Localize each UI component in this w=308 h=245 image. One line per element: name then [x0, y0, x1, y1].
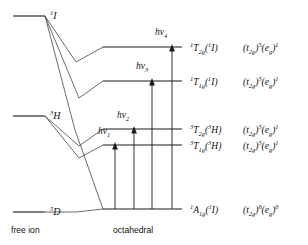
- transition-arrow-hv3: [149, 78, 155, 209]
- octahedral-term-label-1T1g: 1T1g(1I): [190, 76, 218, 89]
- free-ion-label-5D: 5D: [50, 206, 61, 217]
- free-ion-label-1I: 1I: [50, 10, 57, 21]
- caption-octahedral: octahedral: [113, 226, 153, 235]
- config-label-1T2g: (t2g)5(eg)1: [243, 42, 279, 55]
- transition-label-hv3: hν3: [136, 62, 148, 73]
- caption-free-ion: free ion: [11, 226, 40, 235]
- free-ion-label-3H: 3H: [50, 110, 61, 121]
- transition-arrow-hv2: [131, 126, 137, 209]
- free-ion-levels: [13, 16, 45, 212]
- transition-label-hv2: hν2: [117, 111, 129, 122]
- transition-arrow-hv4: [169, 44, 175, 209]
- transition-arrow-hv1: [112, 142, 118, 209]
- transition-label-hv1: hν1: [98, 127, 110, 138]
- config-label-3T2g: (t2g)5(eg)1: [243, 124, 279, 137]
- octahedral-term-label-1T2g: 1T2g(1I): [190, 42, 218, 55]
- octahedral-term-label-3T2g: 3T2g(3H): [190, 124, 221, 137]
- octahedral-term-label-3T1g: 3T1g(3H): [190, 140, 221, 153]
- correlation-3H-to-3T1g: [45, 116, 103, 158]
- transition-label-hv4: hν4: [155, 28, 167, 39]
- correlation-1I-to-1T2g: [45, 16, 103, 62]
- figure-canvas: 1I 3H 5D 1T2g(1I) 1T1g(1I) 3T2g(3H) 3T1g…: [0, 0, 308, 245]
- octahedral-term-label-1A1g: 1A1g(1I): [190, 204, 218, 217]
- config-label-1T1g: (t2g)5(eg)1: [243, 76, 279, 89]
- config-label-1A1g: (t2g)6(eg)0: [243, 204, 279, 217]
- config-label-3T1g: (t2g)5(eg)1: [243, 140, 279, 153]
